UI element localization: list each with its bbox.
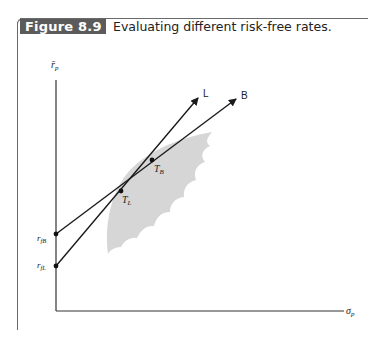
intercept-label-rfB: rfB	[37, 233, 46, 244]
line-label-B: B	[241, 90, 248, 101]
y-axis-label: r̄p	[51, 59, 59, 72]
line-label-L: L	[203, 88, 209, 99]
x-axis-label: σp	[346, 305, 355, 318]
intercept-label-rfL: rfL	[37, 260, 46, 271]
tangency-point-TB	[150, 158, 155, 163]
risk-free-rate-diagram: r̄p σp L B rfB rfL TL TB	[0, 0, 383, 345]
intercept-point-rfL	[54, 264, 59, 269]
feasible-region	[107, 132, 212, 254]
tangency-point-TL	[119, 189, 124, 194]
intercept-point-rfB	[54, 232, 59, 237]
